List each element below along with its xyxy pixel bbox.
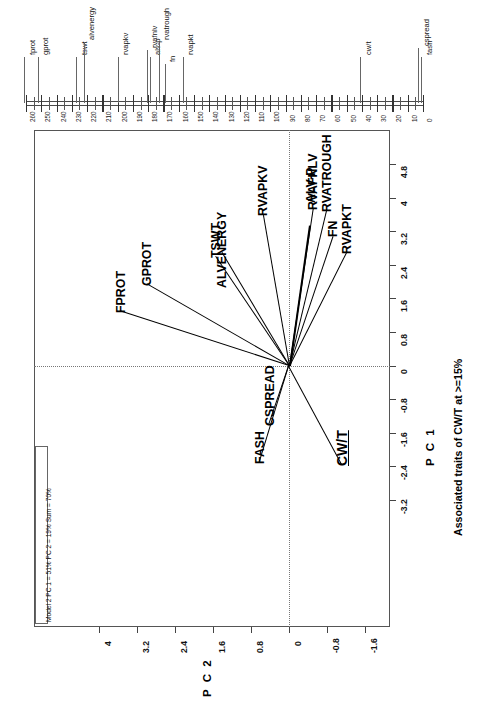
ruler-tick-label: 180 [151, 111, 158, 122]
pc2-axis-title: P C 2 [201, 658, 213, 697]
ruler-tick-label: 250 [44, 111, 51, 122]
ruler-minor-tick [415, 97, 416, 110]
pc1-tick-label: 0.8 [399, 334, 409, 346]
pc1-tick-label: 3.2 [399, 233, 409, 245]
ruler-minor-tick [385, 97, 386, 110]
ruler-tick-label: 120 [243, 111, 250, 122]
vector-label-rvapkv: RVAPKV [256, 166, 270, 217]
ruler-marker-label: alv-p [153, 39, 162, 55]
vector-label-cw-t: CW/T [334, 430, 350, 466]
ruler-marker-line [147, 50, 148, 103]
model-annotation-text: Model 2 PC 1 = 51% PC 2 = 19% Sum = 70% [45, 488, 52, 622]
figure-caption: Associated traits of CW/T at >=15% [452, 358, 464, 535]
pc1-tick [390, 466, 396, 467]
ruler-minor-tick [171, 97, 172, 110]
pc2-tick-label: -0.8 [331, 638, 341, 653]
pc1-tick-label: -2.4 [399, 465, 409, 480]
ruler-tick [286, 95, 287, 112]
ruler-tick [87, 95, 88, 112]
ruler-tick-label: 70 [319, 115, 326, 122]
ruler-marker-label: cw/t [364, 41, 373, 55]
ruler-marker-line [165, 64, 166, 103]
pc1-tick [390, 231, 396, 232]
pc2-tick [289, 627, 290, 633]
ruler-minor-tick [186, 97, 187, 110]
ruler-tick-label: 150 [197, 111, 204, 122]
ruler-tick-label: 240 [60, 111, 67, 122]
ruler-minor-tick [308, 97, 309, 110]
ruler-marker-line [421, 57, 422, 103]
ruler-tick [26, 95, 27, 112]
ruler-tick [377, 95, 378, 112]
ruler-minor-tick [49, 97, 50, 110]
ruler-marker-label: rvapkt [186, 34, 195, 55]
pc1-tick-label: -1.6 [399, 432, 409, 447]
pc2-tick-label: 0 [293, 641, 303, 646]
pc1-axis-title: P C 1 [424, 427, 436, 466]
ruler-minor-tick [339, 97, 340, 110]
vector-label-cspread: CSPREAD [263, 366, 277, 427]
ruler-tick-label: 260 [29, 111, 36, 122]
ruler-tick [331, 95, 332, 112]
ruler-marker-label: fash [425, 41, 434, 55]
ruler-marker-label: gprot [41, 38, 50, 55]
ruler-tick [72, 95, 73, 112]
pc1-tick-label: 4 [399, 201, 409, 206]
vector-label-gprot: GPROT [140, 242, 154, 286]
vector-label-fprot: FPROT [114, 271, 128, 313]
ruler-tick-label: 170 [166, 111, 173, 122]
ruler-minor-tick [217, 97, 218, 110]
figure-page: 2602502402302202102001901801701601501401… [0, 0, 483, 718]
pc2-tick [213, 627, 214, 633]
pc1-tick-label: 1.6 [399, 300, 409, 312]
ruler-minor-tick [232, 97, 233, 110]
ruler-tick-label: 90 [289, 115, 296, 122]
ruler-marker-label: rvapkv [121, 33, 130, 55]
pc1-tick-label: -3.2 [399, 499, 409, 514]
ruler-tick-label: 0 [426, 118, 433, 122]
pc2-tick-label: 3.2 [141, 641, 151, 653]
ruler-tick [362, 95, 363, 112]
ruler-tick [209, 95, 210, 112]
vector-label-rvatrough: RVATROUGH [320, 134, 334, 212]
ruler-minor-tick [64, 97, 65, 110]
ruler-tick [347, 95, 348, 112]
ruler-minor-tick [370, 97, 371, 110]
ruler-tick [423, 95, 424, 112]
ruler-marker-label: rvatrough [162, 8, 171, 40]
pc2-tick-label: 2.4 [179, 641, 189, 653]
ruler-marker-line [150, 57, 151, 103]
pc2-tick [175, 627, 176, 633]
ruler-minor-tick [324, 97, 325, 110]
ruler-marker-line [38, 57, 39, 103]
ruler-tick-label: 20 [395, 115, 402, 122]
ruler-tick [57, 95, 58, 112]
zero-line-vertical [289, 130, 290, 627]
pc2-tick-label: -1.6 [369, 638, 379, 653]
ruler-tick-label: 30 [380, 115, 387, 122]
ruler-minor-tick [141, 97, 142, 110]
ruler-minor-tick [202, 97, 203, 110]
pc1-tick-label: 4.8 [399, 166, 409, 178]
pc1-tick [390, 332, 396, 333]
pc1-tick [390, 265, 396, 266]
ruler-marker-label: fn [168, 56, 177, 62]
ruler-marker-label: fprot [28, 40, 37, 55]
ruler-marker-line [24, 57, 25, 103]
ruler-tick [179, 95, 180, 112]
ruler-marker-line [183, 57, 184, 103]
ruler-tick [225, 95, 226, 112]
pc1-tick-label: -0.8 [399, 398, 409, 413]
pc2-tick [251, 627, 252, 633]
pc1-tick [390, 164, 396, 165]
ruler-marker-line [76, 57, 77, 103]
pc2-tick-label: 1.6 [217, 641, 227, 653]
ruler-tick-label: 50 [350, 115, 357, 122]
ruler-tick-label: 160 [182, 111, 189, 122]
ruler-tick [270, 95, 271, 112]
ruler-tick-label: 60 [334, 115, 341, 122]
pc1-tick [390, 433, 396, 434]
vector-label-fn: FN [326, 221, 340, 238]
pc2-tick [99, 627, 100, 633]
ruler-tick [392, 95, 393, 112]
